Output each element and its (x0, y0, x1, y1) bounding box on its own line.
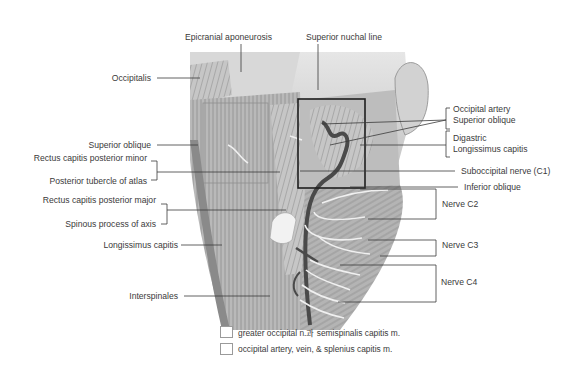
legend-swatch (220, 343, 233, 355)
legend-text: greater occipital n.과 semispinalis capit… (238, 326, 400, 338)
label-digastric: Digastric (453, 133, 486, 143)
anatomy-figure: Epicranial aponeurosis Superior nuchal l… (0, 0, 579, 375)
label-epicranial-aponeurosis: Epicranial aponeurosis (185, 32, 272, 42)
label-occipital-artery: Occipital artery (453, 104, 510, 114)
label-suboccipital-nerve-c1: Suboccipital nerve (C1) (461, 166, 550, 176)
label-rectus-capitis-posterior-major: Rectus capitis posterior major (43, 195, 156, 205)
label-occipitalis: Occipitalis (112, 73, 151, 83)
legend-item-greater-occipital: greater occipital n.과 semispinalis capit… (220, 326, 400, 338)
label-superior-nuchal-line: Superior nuchal line (306, 32, 382, 42)
label-nerve-c3: Nerve C3 (442, 240, 478, 250)
label-nerve-c4: Nerve C4 (441, 277, 477, 287)
legend-item-occipital-artery: occipital artery, vein, & splenius capit… (220, 343, 392, 355)
legend-text: occipital artery, vein, & splenius capit… (238, 344, 392, 354)
label-inferior-oblique: Inferior oblique (464, 182, 521, 192)
label-nerve-c2: Nerve C2 (442, 199, 478, 209)
label-superior-oblique-right: Superior oblique (453, 115, 516, 125)
label-longissimus-capitis-right: Longissimus capitis (453, 144, 528, 154)
label-interspinales: Interspinales (129, 291, 178, 301)
label-longissimus-capitis-left: Longissimus capitis (103, 240, 178, 250)
label-superior-oblique-left: Superior oblique (88, 140, 151, 150)
label-posterior-tubercle-of-atlas: Posterior tubercle of atlas (50, 176, 147, 186)
legend-swatch (220, 326, 233, 338)
label-rectus-capitis-posterior-minor: Rectus capitis posterior minor (34, 153, 147, 163)
label-spinous-process-of-axis: Spinous process of axis (65, 219, 156, 229)
